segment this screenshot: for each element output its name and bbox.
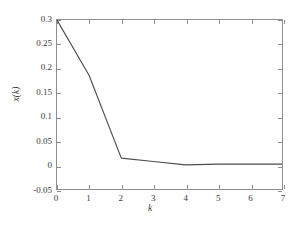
y-tick-mark-right (278, 191, 282, 192)
y-tick-label: 0.15 (13, 88, 52, 97)
plot-area (56, 19, 283, 190)
figure-canvas: x(k) k -0.0500.050.10.150.20.250.3 01234… (0, 0, 300, 231)
y-tick-label: 0.3 (13, 15, 52, 24)
x-tick-label: 0 (41, 194, 71, 203)
x-tick-label: 3 (138, 194, 168, 203)
y-tick-label: 0.2 (13, 63, 52, 72)
y-tick-mark (57, 191, 61, 192)
x-tick-label: 1 (73, 194, 103, 203)
x-tick-mark (284, 185, 285, 189)
y-tick-label: 0.05 (13, 137, 52, 146)
x-tick-label: 7 (268, 194, 298, 203)
x-axis-title: k (0, 203, 300, 213)
data-line-x-of-k (57, 20, 282, 165)
y-tick-label: 0.25 (13, 39, 52, 48)
x-tick-label: 4 (171, 194, 201, 203)
x-tick-mark-top (284, 20, 285, 24)
x-tick-label: 6 (236, 194, 266, 203)
y-tick-label: 0.1 (13, 112, 52, 121)
x-tick-label: 5 (203, 194, 233, 203)
y-tick-label: 0 (13, 161, 52, 170)
data-series-svg (57, 20, 282, 189)
x-tick-label: 2 (106, 194, 136, 203)
